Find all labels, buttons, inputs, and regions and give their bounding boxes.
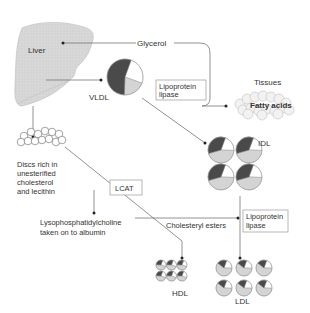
- ldl-pie-4: [216, 280, 232, 296]
- lipoprotein-diagram: Liver Glycerol VLDL Lipoprotein lipase T…: [0, 0, 310, 313]
- discs-label-2: unesterified: [17, 169, 56, 178]
- discs-label-3: cholesterol: [17, 178, 54, 187]
- liver-label: Liver: [28, 46, 46, 55]
- lyso-label-1: Lysophosphatidylcholine: [40, 218, 121, 227]
- lipoprotein-lipase-box-1: Lipoprotein lipase: [156, 80, 206, 100]
- fat-cell-17: [273, 109, 283, 119]
- disc-8: [24, 137, 32, 145]
- disc-11: [45, 135, 53, 143]
- fat-cell-15: [243, 109, 253, 119]
- ldl-pie-5: [236, 280, 252, 296]
- lipoprotein-lipase-2-line-1: Lipoprotein: [246, 212, 283, 221]
- vldl-to-idl-arrow: [142, 98, 205, 143]
- lyso-label-2: taken on to albumin: [40, 228, 105, 237]
- hdl-pie-4: [156, 271, 166, 281]
- lcat-label: LCAT: [115, 184, 134, 193]
- disc-9: [31, 137, 39, 145]
- hdl-pie-1: [156, 260, 166, 270]
- fatty-acids-label: Fatty acids: [250, 101, 292, 110]
- disc-4: [41, 127, 49, 135]
- liver-shape: [15, 22, 94, 106]
- idl-label: IDL: [258, 139, 271, 148]
- ldl-pie-6: [256, 280, 272, 296]
- vldl-label: VLDL: [89, 93, 110, 102]
- lcat-box: LCAT: [110, 180, 142, 195]
- hdl-pie-2: [166, 260, 176, 270]
- discs-label-4: and lecithin: [17, 187, 55, 196]
- liver: Liver: [15, 22, 94, 106]
- hdl-pie-6: [177, 271, 187, 281]
- disc-5: [48, 128, 56, 136]
- fat-cell-16: [257, 110, 267, 120]
- hdl-label: HDL: [172, 289, 189, 298]
- glycerol-label: Glycerol: [137, 39, 167, 48]
- hdl-pie-5: [166, 271, 176, 281]
- hdl-pie-3: [177, 260, 187, 270]
- idl-pie-3: [208, 164, 234, 190]
- ldl-pie-2: [236, 260, 252, 276]
- disc-2: [27, 128, 35, 136]
- hdl-particles: [156, 260, 187, 281]
- vldl-particle: [107, 59, 143, 95]
- idl-particles: [208, 137, 262, 190]
- ldl-pie-1: [216, 260, 232, 276]
- cholesteryl-esters-label: Cholesteryl esters: [166, 221, 226, 230]
- discs-label-1: Discs rich in: [17, 160, 57, 169]
- lipoprotein-lipase-2-line-2: lipase: [246, 221, 266, 230]
- idl-pie-4: [236, 164, 262, 190]
- disc-13: [58, 136, 66, 144]
- disc-7: [17, 138, 25, 146]
- lipoprotein-lipase-box-2: Lipoprotein lipase: [243, 210, 288, 232]
- ldl-particles: [216, 260, 272, 296]
- discs-to-hdl-arrow: [65, 147, 182, 258]
- vldl-pie: [107, 59, 143, 95]
- lipoprotein-lipase-1-line-2: lipase: [159, 90, 179, 99]
- ldl-pie-3: [256, 260, 272, 276]
- ldl-label: LDL: [235, 297, 250, 306]
- idl-pie-1: [208, 137, 234, 163]
- discs-cluster: [17, 127, 66, 146]
- disc-10: [38, 136, 46, 144]
- tissues-label: Tissues: [254, 78, 281, 87]
